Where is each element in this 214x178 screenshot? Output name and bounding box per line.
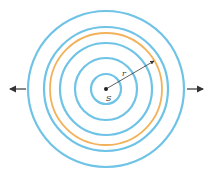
- radius-label: r: [122, 69, 127, 78]
- point-source: [104, 87, 108, 91]
- wavefront-diagram: r S: [0, 0, 214, 178]
- source-label: S: [106, 94, 112, 103]
